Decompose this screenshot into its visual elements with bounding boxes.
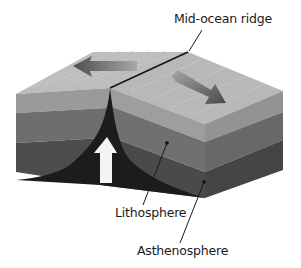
left-lithosphere-layer [16, 108, 107, 143]
asthenosphere-pointer-dot [202, 180, 206, 184]
diagram-canvas: Mid-ocean ridge Lithosphere Asthenospher… [0, 0, 301, 268]
asthenosphere-label: Asthenosphere [137, 245, 228, 258]
plate-block-illustration [0, 0, 301, 268]
ridge-leader-line [189, 30, 202, 51]
lithosphere-pointer-dot [165, 141, 169, 145]
lithosphere-label: Lithosphere [115, 207, 186, 220]
mid-ocean-ridge-label: Mid-ocean ridge [174, 13, 272, 26]
